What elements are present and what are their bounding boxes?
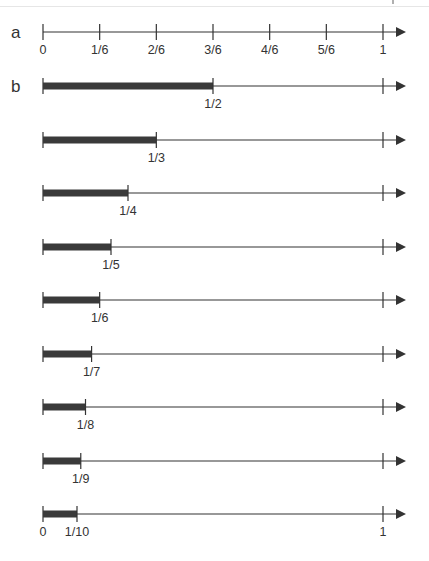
fraction-label: 1/7	[83, 365, 100, 379]
fraction-bar	[43, 244, 111, 251]
panel-a-tick-label: 1/6	[91, 43, 108, 57]
one-label: 1	[380, 525, 387, 539]
panel-a-tick-label: 2/6	[148, 43, 165, 57]
fraction-bar	[43, 137, 156, 144]
panel-a-tick-label: 0	[40, 43, 47, 57]
fraction-bar	[43, 458, 81, 465]
panel-b-row-arrow-icon	[396, 242, 406, 252]
panel-b-row-arrow-icon	[396, 295, 406, 305]
panel-b-row-arrow-icon	[396, 349, 406, 359]
panel-b-label: b	[11, 77, 20, 96]
fraction-bar	[43, 511, 77, 518]
panel-b-row-arrow-icon	[396, 509, 406, 519]
zero-label: 0	[40, 525, 47, 539]
panel-a-label: a	[11, 23, 21, 42]
panel-b-row-arrow-icon	[396, 81, 406, 91]
panel-b-row-arrow-icon	[396, 135, 406, 145]
panel-a-tick-label: 4/6	[261, 43, 278, 57]
panel-b-row-arrow-icon	[396, 188, 406, 198]
fraction-label: 1/9	[72, 472, 89, 486]
fraction-label: 1/2	[204, 97, 221, 111]
fraction-label: 1/3	[148, 151, 165, 165]
fraction-label: 1/6	[91, 311, 108, 325]
panel-a-tick-label: 5/6	[318, 43, 335, 57]
fraction-label: 1/10	[65, 525, 89, 539]
fraction-bar	[43, 351, 92, 358]
fraction-bar	[43, 404, 86, 411]
fraction-bar	[43, 297, 100, 304]
fraction-bar	[43, 83, 213, 90]
number-line-figure: a01/62/63/64/65/61b1/21/31/41/51/61/71/8…	[0, 0, 429, 561]
fraction-label: 1/5	[102, 258, 119, 272]
fraction-label: 1/4	[119, 204, 136, 218]
fraction-bar	[43, 190, 128, 197]
panel-b-row-arrow-icon	[396, 402, 406, 412]
panel-a-tick-label: 3/6	[204, 43, 221, 57]
panel-a-tick-label: 1	[380, 43, 387, 57]
panel-a-arrow-icon	[396, 27, 406, 37]
fraction-label: 1/8	[77, 418, 94, 432]
panel-b-row-arrow-icon	[396, 456, 406, 466]
